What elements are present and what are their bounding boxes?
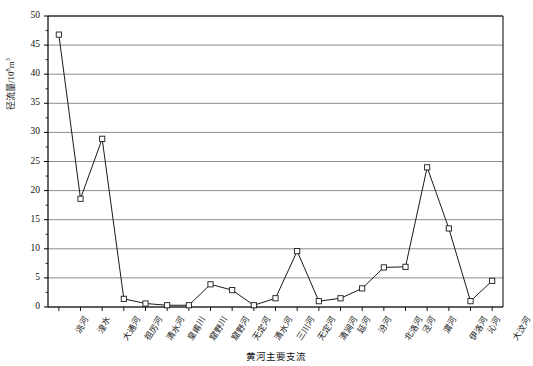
y-tick-label: 10 [14, 244, 40, 254]
data-point-marker [338, 296, 343, 301]
y-tick-label: 50 [14, 11, 40, 21]
data-point-marker [273, 296, 278, 301]
y-axis-title-suffix: m [6, 61, 16, 68]
data-point-marker [295, 249, 300, 254]
y-tick-label: 45 [14, 40, 40, 50]
data-point-marker [208, 282, 213, 287]
y-tick-label: 20 [14, 186, 40, 196]
data-point-marker [403, 264, 408, 269]
y-axis-title-exp1: 8 [4, 68, 11, 71]
data-markers [56, 32, 495, 308]
data-point-marker [56, 32, 61, 37]
data-point-marker [143, 301, 148, 306]
x-axis-title: 黄河主要支流 [246, 349, 306, 363]
data-point-marker [186, 303, 191, 308]
data-point-marker [316, 299, 321, 304]
data-point-marker [490, 278, 495, 283]
data-point-marker [165, 303, 170, 308]
y-tick-label: 25 [14, 157, 40, 167]
data-point-marker [78, 196, 83, 201]
y-tick-label: 0 [14, 302, 40, 312]
data-point-marker [381, 265, 386, 270]
data-point-marker [121, 296, 126, 301]
y-tick-label: 40 [14, 69, 40, 79]
data-point-marker [360, 286, 365, 291]
data-point-marker [230, 288, 235, 293]
data-point-marker [251, 303, 256, 308]
data-point-marker [468, 299, 473, 304]
y-ticks [44, 16, 48, 307]
gridlines [48, 16, 503, 307]
y-tick-label: 15 [14, 215, 40, 225]
y-axis-title-exp2: 3 [4, 58, 11, 61]
data-point-marker [446, 226, 451, 231]
y-tick-label: 30 [14, 127, 40, 137]
data-point-marker [425, 165, 430, 170]
y-tick-label: 35 [14, 98, 40, 108]
y-tick-label: 5 [14, 273, 40, 283]
x-ticks [59, 307, 492, 311]
data-point-marker [100, 136, 105, 141]
